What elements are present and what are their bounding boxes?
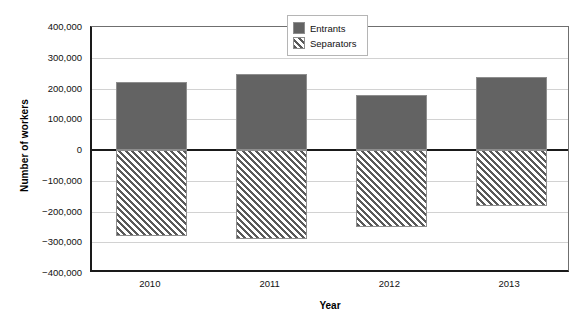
y-axis-tick-label: 200,000 xyxy=(8,82,82,93)
y-axis-tick-label: −300,000 xyxy=(8,236,82,247)
y-axis-tick-label: 300,000 xyxy=(8,51,82,62)
bar-separators-2011 xyxy=(236,150,307,239)
solid-gray-swatch-icon xyxy=(293,22,305,34)
y-axis-tick-label: 0 xyxy=(8,144,82,155)
bar-entrants-2011 xyxy=(236,74,307,150)
bar-separators-2010 xyxy=(116,150,187,236)
bar-separators-2013 xyxy=(476,150,547,206)
bar-separators-2012 xyxy=(356,150,427,227)
x-axis-tick-label-2013: 2013 xyxy=(449,278,569,289)
hatched-swatch-icon xyxy=(293,37,305,49)
x-axis-title: Year xyxy=(90,300,570,311)
plot-area xyxy=(90,26,569,272)
y-axis-tick-label: 100,000 xyxy=(8,113,82,124)
bar-chart: Number of workers 400,000300,000200,0001… xyxy=(0,0,581,323)
chart-legend: Entrants Separators xyxy=(287,15,368,56)
y-axis-tick-label: −200,000 xyxy=(8,205,82,216)
bar-entrants-2013 xyxy=(476,77,547,150)
y-axis-tick-label: −100,000 xyxy=(8,174,82,185)
legend-item-entrants: Entrants xyxy=(293,21,362,35)
bar-entrants-2010 xyxy=(116,82,187,150)
legend-label-entrants: Entrants xyxy=(310,23,345,34)
x-axis-tick-label-2011: 2011 xyxy=(210,278,330,289)
legend-label-separators: Separators xyxy=(310,38,356,49)
legend-item-separators: Separators xyxy=(293,36,362,50)
x-axis-tick-label-2012: 2012 xyxy=(329,278,449,289)
gridline xyxy=(92,242,568,243)
y-axis-tick-label: 400,000 xyxy=(8,21,82,32)
y-axis-tick-label: −400,000 xyxy=(8,267,82,278)
bar-entrants-2012 xyxy=(356,95,427,150)
gridline xyxy=(92,58,568,59)
x-axis-tick-label-2010: 2010 xyxy=(90,278,210,289)
plot-inner xyxy=(92,27,568,270)
